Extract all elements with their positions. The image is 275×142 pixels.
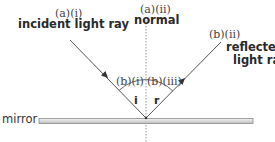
reflected-ray-tag: (b)(ii) [209, 29, 240, 40]
angle-of-incidence-symbol: i [134, 95, 138, 106]
incident-ray-label: incident light ray [18, 19, 129, 31]
angle-of-incidence-tag: (b)(i) [116, 76, 144, 87]
reflection-diagram: (a)(i) incident light ray (a)(ii) normal… [0, 0, 275, 142]
incident-arrowhead-icon [101, 71, 108, 78]
reflected-ray-label-line1: reflected [226, 42, 275, 54]
normal-label: normal [134, 15, 179, 27]
angle-of-reflection-symbol: r [154, 95, 159, 106]
angle-of-reflection-tag: (b)(iii) [147, 76, 182, 87]
point-of-incidence [145, 117, 148, 120]
reflected-ray-label-line2: light ray [233, 55, 275, 67]
mirror-label: mirror [2, 114, 37, 126]
